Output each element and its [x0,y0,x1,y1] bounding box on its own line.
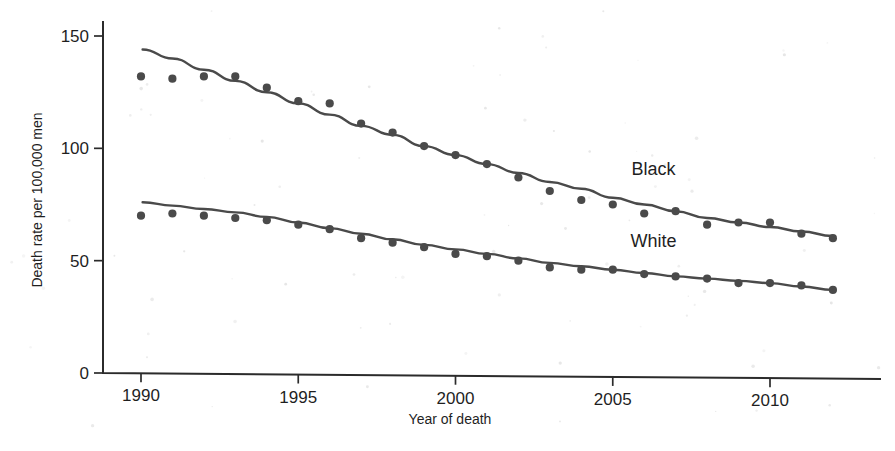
paper-speck [312,93,315,96]
data-point [577,196,585,204]
paper-speck [826,42,828,44]
paper-speck [564,227,567,230]
data-point [389,239,397,247]
y-tick-label-150: 150 [61,27,89,46]
data-point [672,207,680,215]
x-tick-label-1990: 1990 [122,386,160,405]
fit-curve-white [143,202,833,290]
paper-speck [211,10,213,12]
paper-speck [146,83,149,86]
paper-speck [686,315,688,317]
data-point [326,225,334,233]
data-point [766,279,774,287]
data-point [766,218,774,226]
data-point [797,281,805,289]
paper-speck [624,122,625,123]
paper-speck [498,27,500,29]
paper-speck [464,352,467,355]
paper-speck [751,364,755,368]
data-point [829,286,837,294]
data-point [231,72,239,80]
paper-speck [688,295,689,296]
paper-speck [22,254,25,257]
paper-speck [569,320,571,322]
paper-speck [828,404,831,407]
data-point [703,221,711,229]
paper-speck [29,346,32,349]
paper-speck [498,293,501,296]
data-point [200,212,208,220]
data-point [263,84,271,92]
paper-speck [540,202,543,205]
x-tick-label-2010: 2010 [751,391,789,410]
chart-svg: 05010015019901995200020052010 BlackWhite… [0,0,895,451]
paper-speck [233,320,237,324]
paper-speck [253,204,255,206]
paper-speck [694,304,696,306]
paper-speck [762,349,765,352]
paper-speck [113,255,115,257]
paper-speck [715,411,716,412]
paper-speck [368,85,371,88]
data-point [514,257,522,265]
paper-speck [360,327,362,329]
data-point [609,200,617,208]
paper-speck [629,219,631,221]
paper-speck [150,114,152,116]
paper-speck [229,138,231,140]
paper-speck [508,225,509,226]
paper-speck [637,60,638,61]
data-point [451,250,459,258]
paper-speck [10,261,13,264]
data-point [168,75,176,83]
data-point [514,173,522,181]
paper-speck [636,151,637,152]
paper-speck [703,290,706,293]
x-tick-label-2000: 2000 [437,389,475,408]
data-point [231,214,239,222]
paper-speck [605,262,609,266]
paper-speck [654,185,657,188]
y-tick-label-50: 50 [70,252,89,271]
paper-speck [183,250,185,252]
paper-speck [68,219,71,222]
paper-speck [278,185,281,188]
paper-speck [803,249,806,252]
data-point [263,216,271,224]
paper-speck [204,177,205,178]
paper-speck [401,276,405,280]
data-point [420,243,428,251]
paper-speck [541,35,544,38]
y-axis-title: Death rate per 100,000 men [29,112,45,287]
paper-speck [830,302,833,305]
data-point [546,263,554,271]
data-point [389,129,397,137]
data-points-black [137,72,837,242]
data-point [829,234,837,242]
data-point [577,266,585,274]
data-point [672,272,680,280]
paper-speck [349,229,350,230]
data-point [294,97,302,105]
paper-speck [492,250,496,254]
data-point [640,270,648,278]
white-series-label: White [631,231,677,251]
paper-speck [261,140,264,143]
paper-speck [640,326,642,328]
paper-speck [695,137,699,141]
data-point [734,279,742,287]
x-tick-label-2005: 2005 [594,390,632,409]
paper-speck [690,190,693,193]
data-point [326,99,334,107]
data-point [734,218,742,226]
paper-speck [147,332,150,335]
paper-speck [484,214,486,216]
paper-speck [212,406,213,407]
paper-speck [146,356,148,358]
axes-layer: 05010015019901995200020052010 [61,22,880,410]
paper-speck [651,154,653,156]
data-point [703,275,711,283]
paper-speck [677,265,680,268]
paper-speck [523,118,526,121]
chart-figure: 05010015019901995200020052010 BlackWhite… [0,0,895,451]
